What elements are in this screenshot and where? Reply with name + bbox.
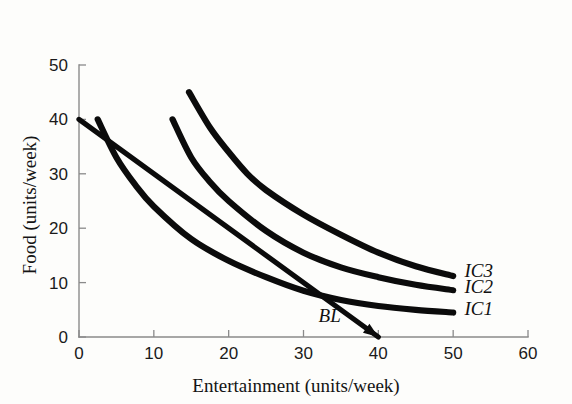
y-tick-label-10: 10 (49, 274, 68, 293)
indifference-curve-chart: 0102030405060 01020304050 IC3IC2IC1BL En… (0, 0, 572, 404)
chart-page: 0102030405060 01020304050 IC3IC2IC1BL En… (0, 0, 572, 404)
x-axis-title: Entertainment (units/week) (192, 375, 399, 397)
x-axis-tick-labels: 0102030405060 (74, 344, 537, 363)
y-tick-label-0: 0 (59, 328, 68, 347)
y-axis-title: Food (units/week) (19, 136, 41, 275)
series-ic3 (189, 92, 453, 276)
chart-series-group (79, 92, 453, 337)
y-tick-label-50: 50 (49, 56, 68, 75)
x-tick-label-20: 20 (219, 344, 238, 363)
y-tick-label-40: 40 (49, 110, 68, 129)
x-tick-label-60: 60 (519, 344, 538, 363)
label-ic1: IC1 (463, 298, 493, 319)
y-axis-tick-labels: 01020304050 (49, 56, 68, 347)
label-bl: BL (319, 305, 341, 326)
x-axis-ticks (79, 330, 528, 337)
y-tick-label-30: 30 (49, 165, 68, 184)
x-tick-label-30: 30 (294, 344, 313, 363)
x-tick-label-40: 40 (369, 344, 388, 363)
y-tick-label-20: 20 (49, 219, 68, 238)
x-tick-label-10: 10 (144, 344, 163, 363)
x-tick-label-50: 50 (444, 344, 463, 363)
x-tick-label-0: 0 (74, 344, 83, 363)
y-axis-ticks (79, 65, 86, 337)
label-ic2: IC2 (463, 276, 493, 297)
